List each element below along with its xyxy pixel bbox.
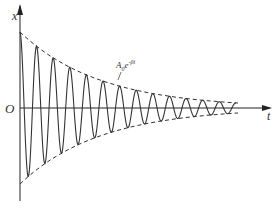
envelope-label-leader bbox=[118, 72, 121, 80]
envelope-exponent: -βt bbox=[129, 59, 136, 65]
t-axis-label: t bbox=[267, 109, 270, 124]
x-axis-arrow-icon bbox=[17, 4, 23, 15]
damped-oscillation-diagram bbox=[0, 0, 280, 211]
envelope-label: A0e-βt bbox=[116, 59, 135, 72]
origin-label: O bbox=[5, 101, 14, 117]
lower-envelope bbox=[20, 113, 238, 184]
x-axis-label: x bbox=[12, 9, 17, 24]
damped-oscillation-curve bbox=[20, 32, 236, 176]
